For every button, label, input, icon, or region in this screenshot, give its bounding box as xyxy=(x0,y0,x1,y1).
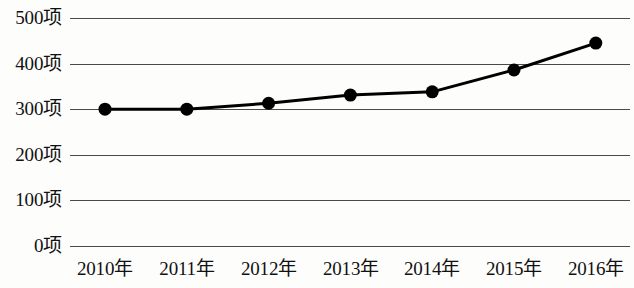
data-point-2016年 xyxy=(589,37,602,50)
data-point-2015年 xyxy=(508,63,521,76)
data-point-2014年 xyxy=(426,85,439,98)
data-point-2010年 xyxy=(99,103,112,116)
x-axis-label-2011: 2011年 xyxy=(159,258,214,280)
x-axis-label-2013: 2013年 xyxy=(323,258,379,280)
data-point-2013年 xyxy=(344,89,357,102)
data-series-layer xyxy=(0,0,634,288)
x-axis-label-2010: 2010年 xyxy=(77,258,133,280)
data-point-2012年 xyxy=(262,97,275,110)
plot-area: 500项 400项 300项 200项 100项 0项 2010年 2011年 … xyxy=(0,0,634,288)
x-axis-label-2015: 2015年 xyxy=(486,258,542,280)
x-axis-label-2016: 2016年 xyxy=(568,258,624,280)
series-markers xyxy=(99,37,603,116)
line-chart: 500项 400项 300项 200项 100项 0项 2010年 2011年 … xyxy=(0,0,634,288)
x-axis-label-2014: 2014年 xyxy=(404,258,460,280)
x-axis-label-2012: 2012年 xyxy=(241,258,297,280)
data-point-2011年 xyxy=(180,103,193,116)
